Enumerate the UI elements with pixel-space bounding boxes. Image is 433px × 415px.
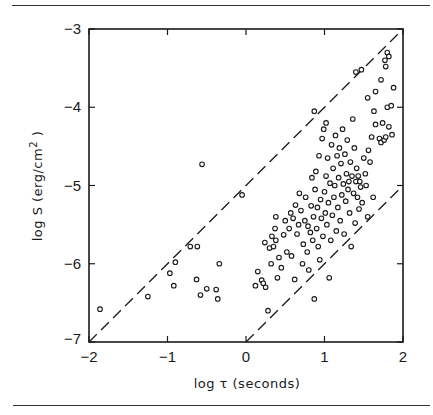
data-point — [348, 160, 353, 165]
data-point — [279, 265, 284, 270]
data-point — [346, 187, 351, 192]
data-point — [300, 261, 305, 266]
data-point — [317, 258, 322, 263]
data-point — [307, 268, 312, 273]
data-point — [341, 182, 346, 187]
data-point — [263, 285, 268, 290]
data-point — [309, 204, 314, 209]
data-point — [315, 205, 320, 210]
data-point — [371, 195, 376, 200]
data-point — [358, 185, 363, 190]
data-point — [365, 215, 370, 220]
data-point — [368, 160, 373, 165]
data-point — [277, 255, 282, 260]
reference-lines — [89, 29, 403, 342]
data-point — [335, 153, 340, 158]
data-point — [198, 293, 203, 298]
data-point — [345, 138, 350, 143]
x-axis-title: log τ (seconds) — [194, 376, 301, 391]
data-point — [293, 203, 298, 208]
data-point — [271, 244, 276, 249]
data-point — [195, 244, 200, 249]
data-point — [373, 122, 378, 127]
y-tick-label: −4 — [64, 98, 81, 115]
data-point — [204, 286, 209, 291]
data-point — [327, 276, 332, 281]
data-point — [274, 215, 279, 220]
data-point — [275, 276, 280, 281]
data-point — [321, 234, 326, 239]
data-point — [373, 89, 378, 94]
data-point — [168, 271, 173, 276]
data-point — [340, 127, 345, 132]
data-point — [312, 109, 317, 114]
data-point — [311, 215, 316, 220]
data-point — [323, 211, 328, 216]
data-point — [326, 200, 331, 205]
data-point — [361, 156, 366, 161]
data-point — [328, 238, 333, 243]
data-point — [194, 277, 199, 282]
data-point — [200, 162, 205, 167]
data-point — [292, 277, 297, 282]
data-point — [356, 174, 361, 179]
data-point — [321, 127, 326, 132]
data-point — [310, 175, 315, 180]
data-point — [291, 216, 296, 221]
data-point — [301, 242, 306, 247]
data-point — [310, 238, 315, 243]
x-tick-label: 2 — [399, 348, 407, 365]
data-point — [354, 70, 359, 75]
data-point — [360, 200, 365, 205]
data-point — [98, 307, 103, 312]
data-point — [391, 85, 396, 90]
data-point — [343, 199, 348, 204]
data-point — [389, 103, 394, 108]
data-point — [355, 195, 360, 200]
data-point — [337, 146, 342, 151]
data-point — [344, 171, 349, 176]
data-point — [336, 205, 341, 210]
data-point — [270, 234, 275, 239]
data-point — [320, 136, 325, 141]
data-point — [354, 166, 359, 171]
x-tick-label: −2 — [80, 348, 97, 365]
data-point — [324, 174, 329, 179]
data-point — [332, 183, 337, 188]
data-point — [347, 179, 352, 184]
data-point — [318, 197, 323, 202]
data-point — [383, 64, 388, 69]
data-point — [296, 222, 301, 227]
data-point — [336, 175, 341, 180]
data-point — [364, 183, 369, 188]
data-point — [217, 261, 222, 266]
data-point — [322, 189, 327, 194]
data-point — [350, 117, 355, 122]
x-tick-labels: −2−1012 — [80, 348, 407, 365]
data-point — [273, 226, 278, 231]
data-point — [289, 254, 294, 259]
data-point — [387, 54, 392, 59]
data-point — [308, 230, 313, 235]
data-point — [390, 132, 395, 137]
data-point — [325, 156, 330, 161]
data-point — [349, 244, 354, 249]
data-point — [255, 269, 260, 274]
data-point — [188, 244, 193, 249]
data-point — [281, 232, 286, 237]
data-point — [366, 148, 371, 153]
data-point — [339, 193, 344, 198]
data-point — [215, 297, 220, 302]
data-point — [274, 238, 279, 243]
data-point — [383, 135, 388, 140]
data-point — [387, 125, 392, 130]
data-point — [328, 181, 333, 186]
data-point — [380, 121, 385, 126]
data-point — [283, 218, 288, 223]
data-point — [358, 179, 363, 184]
y-tick-label: −6 — [64, 255, 81, 272]
x-tick-label: −1 — [159, 348, 176, 365]
data-point — [288, 211, 293, 216]
data-point — [312, 297, 317, 302]
x-tick-label: 0 — [242, 348, 250, 365]
